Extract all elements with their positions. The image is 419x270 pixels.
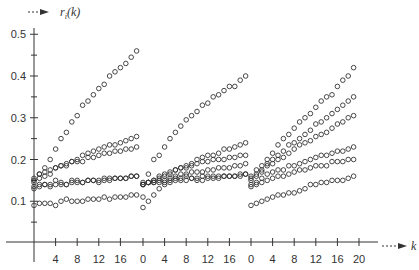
data-point [118,65,123,70]
data-point [335,84,340,89]
data-point [249,203,254,208]
data-point [265,172,270,177]
data-point [292,191,297,196]
y-axis-title: ri(k) [28,5,80,21]
x-tick-label: 8 [291,253,297,265]
data-point [335,159,340,164]
data-point [102,151,107,156]
data-point [211,168,216,173]
data-point [206,153,211,158]
data-point [265,197,270,202]
data-point [281,193,286,198]
data-point [292,147,297,152]
data-point [118,195,123,200]
data-point [292,170,297,175]
data-point [346,157,351,162]
data-point [124,61,129,66]
data-point [102,145,107,150]
data-point [113,195,118,200]
x-axis-title: k [382,239,417,253]
data-point [97,153,102,158]
data-point [351,95,356,100]
data-point [157,186,162,191]
data-point [86,197,91,202]
data-point [308,128,313,133]
data-point [91,92,96,97]
x-tick-label: 16 [114,253,126,265]
y-axis-label: ri(k) [60,5,80,21]
data-point [64,182,69,187]
data-point [335,178,340,183]
data-point [341,178,346,183]
data-point [319,163,324,168]
data-point [297,143,302,148]
data-point [222,147,227,152]
x-tick-label: 20 [353,253,365,265]
data-point [211,95,216,100]
data-point [351,65,356,70]
data-point [276,168,281,173]
data-point [53,147,58,152]
data-point [346,176,351,181]
data-point [216,92,221,97]
x-tick-label: 16 [331,253,343,265]
data-point [189,113,194,118]
data-point [53,203,58,208]
x-tick-label: 8 [74,253,80,265]
data-point [297,168,302,173]
data-point [341,149,346,154]
data-point [70,120,75,125]
data-point [270,170,275,175]
data-point [308,111,313,116]
data-point [265,178,270,183]
data-point [59,136,64,141]
data-point [276,143,281,148]
data-point [308,138,313,143]
data-point [227,84,232,89]
data-point [319,153,324,158]
data-point [281,174,286,179]
data-point [319,99,324,104]
data-point [297,120,302,125]
data-point [281,149,286,154]
data-point [276,193,281,198]
data-point [270,151,275,156]
data-point [80,103,85,108]
data-point [97,86,102,91]
x-tick-label: 12 [202,253,214,265]
data-point [97,197,102,202]
data-point [80,199,85,204]
data-point [48,201,53,206]
data-point [91,197,96,202]
data-point [260,199,265,204]
data-point [129,147,134,152]
data-point [134,174,139,179]
data-point [80,159,85,164]
data-point [37,201,42,206]
data-point [195,170,200,175]
data-point [276,174,281,179]
y-tick-label: 0.1 [11,195,26,207]
data-point [303,115,308,120]
data-point [124,176,129,181]
data-point [189,176,194,181]
data-point [134,134,139,139]
data-point [308,157,313,162]
data-point [319,132,324,137]
x-tick-label: 4 [53,253,59,265]
data-point [129,55,134,60]
data-point [281,155,286,160]
data-point [238,153,243,158]
data-point [341,103,346,108]
data-point [189,170,194,175]
data-point [107,74,112,79]
data-point [319,120,324,125]
data-point [330,92,335,97]
y-tick-label: 0.3 [11,112,26,124]
data-point [152,157,157,162]
data-point [86,178,91,183]
data-point [206,168,211,173]
data-point [292,126,297,131]
data-point [243,172,248,177]
data-point [200,103,205,108]
